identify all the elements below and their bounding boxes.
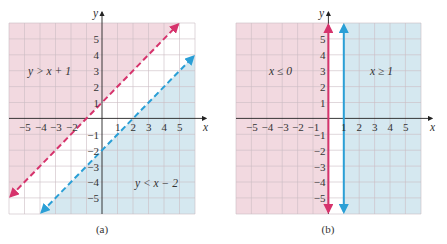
x-axis-label-b: x bbox=[429, 121, 436, 133]
svg-text:−4: −4 bbox=[87, 176, 99, 188]
caption-a: (a) bbox=[96, 223, 109, 236]
svg-text:1: 1 bbox=[115, 121, 121, 133]
svg-text:−3: −3 bbox=[87, 161, 99, 173]
svg-text:4: 4 bbox=[388, 121, 394, 133]
caption-b: (b) bbox=[322, 223, 335, 236]
svg-text:−2: −2 bbox=[66, 121, 78, 133]
region-label-right: x ≥ 1 bbox=[369, 65, 393, 77]
svg-text:−2: −2 bbox=[87, 145, 99, 157]
svg-text:5: 5 bbox=[403, 121, 409, 133]
region-label-upper: y > x + 1 bbox=[27, 65, 71, 78]
svg-text:4: 4 bbox=[94, 49, 100, 61]
svg-text:−1: −1 bbox=[87, 129, 99, 141]
svg-text:2: 2 bbox=[131, 121, 137, 133]
svg-text:−3: −3 bbox=[314, 161, 326, 173]
svg-text:1: 1 bbox=[94, 97, 100, 109]
svg-text:−2: −2 bbox=[292, 121, 304, 133]
svg-text:1: 1 bbox=[320, 97, 326, 109]
svg-text:−5: −5 bbox=[87, 192, 99, 204]
svg-text:2: 2 bbox=[357, 121, 363, 133]
svg-text:5: 5 bbox=[94, 33, 100, 45]
svg-text:3: 3 bbox=[94, 65, 100, 77]
svg-text:4: 4 bbox=[162, 121, 168, 133]
svg-text:−5: −5 bbox=[19, 121, 31, 133]
svg-text:2: 2 bbox=[94, 81, 100, 93]
svg-text:−5: −5 bbox=[246, 121, 258, 133]
y-axis-label-b: y bbox=[318, 7, 325, 20]
svg-text:4: 4 bbox=[320, 49, 326, 61]
panel-a: x y −5 −4 −3 −2 1 2 3 4 5 5 4 3 2 1 −1 −… bbox=[9, 7, 209, 236]
svg-text:1: 1 bbox=[341, 121, 347, 133]
svg-text:−1: −1 bbox=[314, 129, 326, 141]
svg-text:2: 2 bbox=[320, 81, 326, 93]
svg-text:3: 3 bbox=[372, 121, 378, 133]
svg-text:−4: −4 bbox=[262, 121, 274, 133]
x-axis-label-a: x bbox=[202, 121, 209, 133]
svg-text:−2: −2 bbox=[314, 145, 326, 157]
y-axis-label-a: y bbox=[92, 7, 99, 20]
svg-text:−5: −5 bbox=[314, 192, 326, 204]
region-label-lower: y < x − 2 bbox=[134, 177, 178, 190]
svg-text:3: 3 bbox=[146, 121, 152, 133]
svg-text:−4: −4 bbox=[35, 121, 47, 133]
figure: x y −5 −4 −3 −2 1 2 3 4 5 5 4 3 2 1 −1 −… bbox=[0, 0, 447, 244]
panel-b: x y −5 −4 −3 −2 −1 1 2 3 4 5 5 4 3 2 1 −… bbox=[236, 7, 436, 236]
svg-text:−4: −4 bbox=[314, 176, 326, 188]
svg-text:−3: −3 bbox=[50, 121, 62, 133]
svg-text:5: 5 bbox=[177, 121, 183, 133]
svg-text:5: 5 bbox=[320, 33, 326, 45]
svg-text:−3: −3 bbox=[277, 121, 289, 133]
region-label-left: x ≤ 0 bbox=[268, 65, 292, 77]
svg-text:3: 3 bbox=[320, 65, 326, 77]
